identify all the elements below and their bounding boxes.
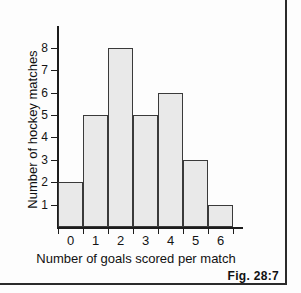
y-axis-tick — [51, 160, 57, 161]
x-axis-tick — [158, 229, 159, 234]
x-axis-tick — [183, 229, 184, 234]
y-axis-tick — [51, 70, 57, 71]
x-axis-tick-label: 3 — [136, 234, 156, 247]
x-axis-tick — [208, 229, 209, 234]
x-axis-label: Number of goals scored per match — [26, 251, 246, 266]
x-axis-tick — [108, 229, 109, 234]
y-axis-tick — [51, 205, 57, 206]
x-axis-line — [57, 227, 243, 229]
y-axis-label: Number of hockey matches — [25, 35, 40, 225]
histogram-chart: 12345678 0123456 Number of hockey matche… — [0, 0, 301, 293]
bar — [83, 115, 108, 227]
x-axis-tick — [58, 229, 59, 234]
bar — [108, 48, 133, 227]
bar — [158, 93, 183, 227]
bar — [58, 182, 83, 227]
x-axis-tick-label: 0 — [61, 234, 81, 247]
x-axis-tick — [233, 229, 234, 234]
x-axis-tick-label: 1 — [86, 234, 106, 247]
figure-caption: Fig. 28:7 — [228, 269, 279, 283]
x-axis-tick-label: 6 — [211, 234, 231, 247]
x-axis-tick-label: 5 — [186, 234, 206, 247]
x-axis-tick — [83, 229, 84, 234]
x-axis-tick — [133, 229, 134, 234]
y-axis-tick — [51, 48, 57, 49]
y-axis-tick — [51, 93, 57, 94]
bar — [133, 115, 158, 227]
x-axis-tick-label: 4 — [161, 234, 181, 247]
y-axis-tick — [51, 137, 57, 138]
y-axis-tick — [51, 182, 57, 183]
y-axis-tick — [51, 115, 57, 116]
bar — [183, 160, 208, 227]
figure-page: 12345678 0123456 Number of hockey matche… — [0, 0, 301, 293]
bar — [208, 205, 233, 227]
x-axis-tick-label: 2 — [111, 234, 131, 247]
